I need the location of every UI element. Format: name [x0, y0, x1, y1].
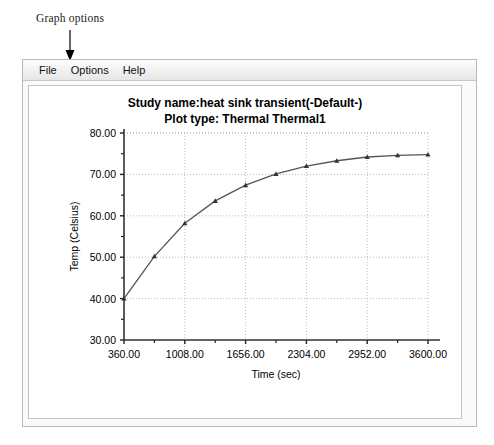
data-series-layer	[124, 155, 428, 299]
down-arrow-icon	[62, 30, 78, 62]
menu-item-options[interactable]: Options	[64, 63, 116, 77]
x-tick-label: 2304.00	[287, 348, 325, 360]
graph-options-annotation-label: Graph options	[36, 12, 104, 24]
y-tick-label: 70.00	[90, 168, 116, 180]
series-line	[124, 155, 428, 299]
axis-layer	[124, 129, 440, 340]
graph-window: File Options Help Study name:heat sink t…	[22, 59, 477, 427]
x-tick-label: 360.00	[108, 348, 140, 360]
y-tick-label: 80.00	[90, 127, 116, 139]
x-tick-label: 1656.00	[227, 348, 265, 360]
tick-label-layer: 30.0040.0050.0060.0070.0080.00360.001008…	[90, 127, 447, 360]
y-tick-label: 50.00	[90, 251, 116, 263]
x-tick-label: 1008.00	[166, 348, 204, 360]
menu-item-file[interactable]: File	[32, 63, 64, 77]
plot-panel: Study name:heat sink transient(-Default-…	[28, 85, 462, 419]
menu-item-help[interactable]: Help	[116, 63, 153, 77]
y-axis-title: Temp (Celsius)	[68, 201, 80, 271]
y-tick-label: 40.00	[90, 293, 116, 305]
tick-mark-layer	[120, 133, 428, 344]
y-tick-label: 30.00	[90, 334, 116, 346]
x-tick-label: 2952.00	[348, 348, 386, 360]
client-area: Study name:heat sink transient(-Default-…	[23, 81, 476, 426]
thermal-line-chart: 30.0040.0050.0060.0070.0080.00360.001008…	[29, 86, 462, 419]
x-axis-title: Time (sec)	[251, 368, 300, 380]
grid-layer	[124, 133, 428, 354]
x-tick-label: 3600.00	[409, 348, 447, 360]
y-tick-label: 60.00	[90, 210, 116, 222]
menu-bar: File Options Help	[23, 60, 476, 81]
data-marker-layer	[121, 152, 430, 301]
